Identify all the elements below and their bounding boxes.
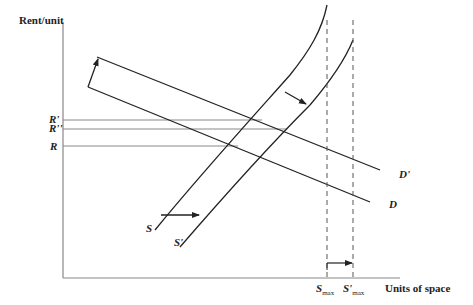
demand-shift-arrow [88, 59, 98, 87]
demand-curve-d-prime [97, 57, 380, 170]
supply-shift-arrow-upper [285, 92, 306, 104]
rent-label-r-double-prime: R'' [49, 122, 62, 134]
smax-label: Smax [316, 282, 334, 297]
demand-label-d-prime: D' [399, 168, 410, 180]
y-axis-label: Rent/unit [19, 14, 64, 26]
supply-label-s-prime: S' [174, 236, 183, 248]
supply-curve-s-prime [180, 40, 353, 247]
diagram-canvas [0, 0, 473, 305]
rent-label-r: R [50, 140, 57, 152]
sprime-max-label: S'max [343, 282, 364, 297]
supply-demand-diagram: Rent/unit Units of space R' R'' R D' D S… [0, 0, 473, 305]
supply-curve-s [155, 5, 327, 230]
supply-label-s: S [146, 222, 152, 234]
demand-label-d: D [389, 198, 397, 210]
x-axis-label: Units of space [385, 282, 450, 294]
